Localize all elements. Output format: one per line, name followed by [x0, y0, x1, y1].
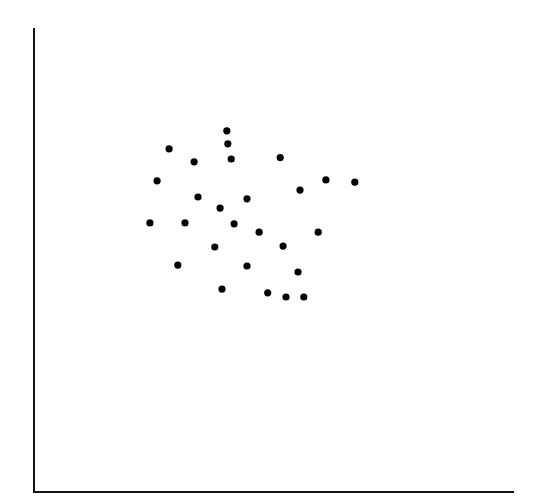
data-point: [296, 187, 303, 194]
data-point: [211, 243, 218, 250]
data-point: [294, 268, 301, 275]
data-point: [218, 286, 225, 293]
data-point: [194, 193, 201, 200]
data-points: [146, 127, 358, 300]
data-point: [231, 220, 238, 227]
data-point: [217, 205, 224, 212]
data-point: [166, 145, 173, 152]
data-point: [243, 195, 250, 202]
data-point: [264, 289, 271, 296]
data-point: [282, 293, 289, 300]
data-point: [181, 219, 188, 226]
data-point: [300, 293, 307, 300]
data-point: [224, 140, 231, 147]
data-point: [277, 154, 284, 161]
data-point: [243, 262, 250, 269]
data-point: [256, 229, 263, 236]
data-point: [322, 176, 329, 183]
data-point: [146, 219, 153, 226]
data-point: [228, 155, 235, 162]
data-point: [280, 243, 287, 250]
data-point: [174, 262, 181, 269]
data-point: [223, 127, 230, 134]
data-point: [315, 229, 322, 236]
data-point: [191, 158, 198, 165]
data-point: [154, 177, 161, 184]
scatter-plot: [0, 0, 533, 501]
data-point: [351, 179, 358, 186]
